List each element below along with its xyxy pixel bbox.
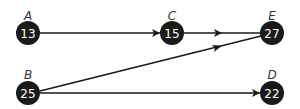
node-value: 22 [264,87,279,101]
node-label: E [268,9,276,23]
edge-b-e [40,36,261,91]
node-label: B [24,68,32,82]
node-value: 15 [164,27,179,41]
node-b: B 25 [16,68,40,105]
node-c: C 15 [160,9,184,45]
node-a: A 13 [16,9,40,45]
node-label: C [168,9,177,23]
node-value: 27 [264,27,279,41]
graph-canvas: A 13 C 15 E 27 B 25 D 22 [0,0,300,109]
node-e: E 27 [260,9,284,45]
node-label: D [267,68,276,82]
node-d: D 22 [260,68,284,105]
node-label: A [23,9,32,23]
edges [40,29,261,97]
node-value: 13 [20,27,35,41]
node-value: 25 [20,87,35,101]
